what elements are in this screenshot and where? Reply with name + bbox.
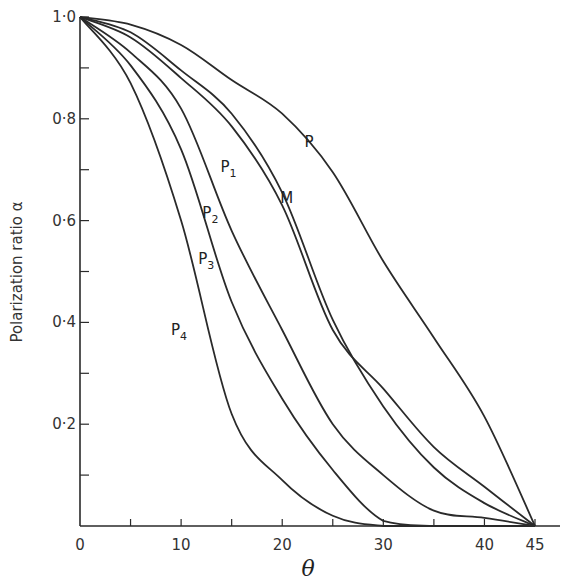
x-tick-label: 45 xyxy=(525,536,544,554)
x-tick-label: 10 xyxy=(172,536,191,554)
curve-label-m: M xyxy=(280,189,293,207)
axes: 010203040450·20·40·60·81·0 xyxy=(52,8,560,554)
y-tick-label: 0·8 xyxy=(52,110,76,128)
y-tick-label: 1·0 xyxy=(52,8,76,26)
x-tick-label: 30 xyxy=(374,536,393,554)
curve-labels: PMP1P2P3P4 xyxy=(171,133,314,343)
curve-label-p2: P2 xyxy=(202,204,218,226)
y-axis-title: Polarization ratio α xyxy=(8,201,26,342)
x-tick-label: 20 xyxy=(273,536,292,554)
x-tick-label: 40 xyxy=(475,536,494,554)
y-tick-label: 0·6 xyxy=(52,212,76,230)
curves xyxy=(80,17,535,526)
curve-label-p3: P3 xyxy=(198,250,214,272)
curve-p1 xyxy=(80,17,535,526)
x-tick-label: 0 xyxy=(75,536,85,554)
x-axis-title: θ xyxy=(301,556,314,581)
y-tick-label: 0·4 xyxy=(52,313,76,331)
y-tick-label: 0·2 xyxy=(52,415,76,433)
curve-label-p1: P1 xyxy=(221,158,237,180)
polarization-ratio-chart: 010203040450·20·40·60·81·0 PMP1P2P3P4 Po… xyxy=(0,0,567,587)
curve-label-p: P xyxy=(304,133,313,151)
curve-label-p4: P4 xyxy=(171,321,187,343)
